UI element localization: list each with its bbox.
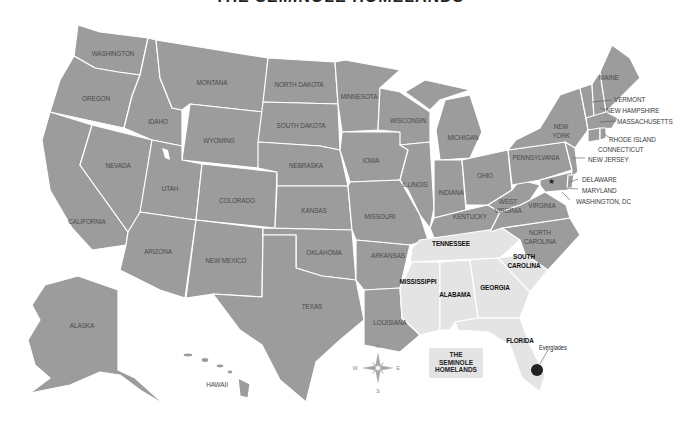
compass-rose-icon xyxy=(362,352,394,384)
legend-line1: THE xyxy=(429,351,483,359)
label-oregon: OREGON xyxy=(82,94,110,103)
label-texas: TEXAS xyxy=(302,302,322,311)
label-nevada: NEVADA xyxy=(105,161,130,170)
label-hawaii: HAWAII xyxy=(206,380,228,389)
label-pennsylvania: PENNSYLVANIA xyxy=(513,153,560,162)
label-new-mexico: NEW MEXICO xyxy=(206,256,247,265)
state-hawaii xyxy=(183,353,250,398)
label-florida-main: FLORIDA xyxy=(506,336,534,345)
state-rhode-island xyxy=(600,128,606,140)
label-north-carolina-line2: CAROLINA xyxy=(524,237,556,246)
label-wisconsin: WISCONSIN xyxy=(390,116,426,125)
label-arizona: ARIZONA xyxy=(144,247,172,256)
state-alaska xyxy=(28,276,165,405)
label-massachusetts: MASSACHUSETTS xyxy=(617,117,673,126)
compass-east: E xyxy=(396,365,400,371)
label-kansas: KANSAS xyxy=(301,206,326,215)
state-new-york xyxy=(508,88,588,150)
label-north-carolina: NORTH CAROLINA xyxy=(524,228,556,246)
label-utah: UTAH xyxy=(162,184,179,193)
capital-star-icon: ★ xyxy=(548,177,555,186)
label-colorado: COLORADO xyxy=(219,196,255,205)
label-north-dakota: NORTH DAKOTA xyxy=(274,80,323,89)
label-louisiana: LOUISIANA xyxy=(373,318,406,327)
label-washington: WASHINGTON xyxy=(92,49,135,58)
label-west-virginia-line1: WEST xyxy=(494,197,521,206)
label-kentucky: KENTUCKY xyxy=(453,212,487,221)
label-south-carolina-line2: CAROLINA xyxy=(508,261,541,270)
compass-north: N xyxy=(376,343,380,349)
label-new-york-line2: YORK xyxy=(552,131,570,140)
label-iowa: IOWA xyxy=(363,156,379,165)
label-new-york-line1: NEW xyxy=(552,122,570,131)
label-arkansas: ARKANSAS xyxy=(371,251,405,260)
label-wyoming: WYOMING xyxy=(203,136,234,145)
label-mississippi: MISSISSIPPI xyxy=(400,277,437,286)
label-maryland: MARYLAND xyxy=(582,186,617,195)
label-illinois: ILLINOIS xyxy=(402,180,428,189)
label-california: CALIFORNIA xyxy=(68,217,105,226)
compass-west: W xyxy=(352,365,357,371)
label-south-carolina: SOUTH CAROLINA xyxy=(508,252,541,270)
label-idaho: IDAHO xyxy=(148,117,168,126)
label-new-jersey: NEW JERSEY xyxy=(588,155,629,164)
label-oklahoma: OKLAHOMA xyxy=(306,248,341,257)
label-alaska-main: ALASKA xyxy=(70,321,94,330)
state-michigan xyxy=(436,95,482,160)
label-tennessee: TENNESSEE xyxy=(432,239,470,248)
label-north-carolina-line1: NORTH xyxy=(524,228,556,237)
label-south-dakota: SOUTH DAKOTA xyxy=(277,121,326,130)
label-minnesota: MINNESOTA xyxy=(341,92,378,101)
location-dot-icon xyxy=(531,364,543,376)
label-vermont: VERMONT xyxy=(614,95,645,104)
label-michigan: MICHIGAN xyxy=(447,133,478,142)
label-missouri: MISSOURI xyxy=(365,212,396,221)
label-delaware: DELAWARE xyxy=(582,175,617,184)
label-west-virginia-line2: VIRGINIA xyxy=(494,206,521,215)
compass-south: S xyxy=(376,388,380,394)
label-new-hampshire: NEW HAMPSHIRE xyxy=(606,106,659,115)
label-new-york: NEW YORK xyxy=(552,122,570,140)
label-ohio: OHIO xyxy=(477,171,493,180)
label-georgia: GEORGIA xyxy=(480,283,510,292)
state-connecticut xyxy=(588,128,600,142)
label-nebraska: NEBRASKA xyxy=(289,161,323,170)
label-indiana: INDIANA xyxy=(438,188,463,197)
label-maine: MAINE xyxy=(599,73,619,82)
label-south-carolina-line1: SOUTH xyxy=(508,252,541,261)
label-washington-dc: WASHINGTON, DC xyxy=(576,197,631,206)
legend-line3: HOMELANDS xyxy=(429,366,483,374)
label-west-virginia: WEST VIRGINIA xyxy=(494,197,521,215)
state-montana xyxy=(156,40,268,112)
label-montana: MONTANA xyxy=(197,78,228,87)
legend-line2: SEMINOLE xyxy=(429,359,483,367)
label-connecticut: CONNECTICUT xyxy=(598,145,643,154)
label-virginia: VIRGINIA xyxy=(528,201,555,210)
legend-box: THE SEMINOLE HOMELANDS xyxy=(429,348,483,378)
label-alabama: ALABAMA xyxy=(439,290,471,299)
label-rhode-island: RHODE ISLAND xyxy=(609,135,656,144)
everglades-label: Everglades xyxy=(539,344,567,351)
